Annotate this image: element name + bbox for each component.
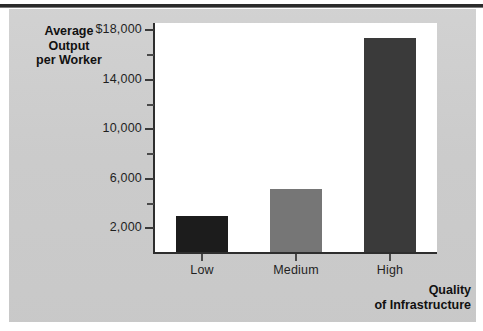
- x-axis-tick-high: [389, 254, 391, 261]
- y-axis-tick-12000: [147, 104, 154, 106]
- plot-area: [155, 23, 437, 253]
- figure-root: Average Output per Worker $18,00014,0001…: [0, 0, 483, 331]
- x-axis-title-line-2: of Infrastructure: [241, 298, 471, 313]
- x-axis-label-high: High: [340, 263, 440, 277]
- y-axis-tick-6000: [145, 178, 154, 180]
- y-axis-tick-16000: [147, 54, 154, 56]
- y-axis-tick-14000: [145, 79, 154, 81]
- y-axis-label-2000: 2,000: [42, 220, 142, 234]
- bar-low[interactable]: [176, 216, 228, 253]
- x-axis-label-low: Low: [152, 263, 252, 277]
- x-axis-tick-low: [201, 254, 203, 261]
- y-axis-label-14000: 14,000: [42, 72, 142, 86]
- y-axis-tick-8000: [147, 153, 154, 155]
- x-axis-title: Quality of Infrastructure: [241, 283, 471, 312]
- bar-high[interactable]: [364, 38, 416, 253]
- y-axis-tick-4000: [147, 203, 154, 205]
- y-axis-label-6000: 6,000: [42, 171, 142, 185]
- x-axis-label-medium: Medium: [246, 263, 346, 277]
- x-axis-tick-medium: [295, 254, 297, 261]
- y-axis-line: [153, 23, 155, 254]
- bar-medium[interactable]: [270, 189, 322, 253]
- y-axis-label-18000: $18,000: [42, 22, 142, 36]
- y-axis-tick-2000: [145, 227, 154, 229]
- x-axis-title-line-1: Quality: [241, 283, 471, 298]
- y-axis-tick-18000: [145, 29, 154, 31]
- y-axis-tick-labels: $18,00014,00010,0006,0002,000: [38, 0, 142, 331]
- y-axis-tick-10000: [145, 128, 154, 130]
- y-axis-label-10000: 10,000: [42, 121, 142, 135]
